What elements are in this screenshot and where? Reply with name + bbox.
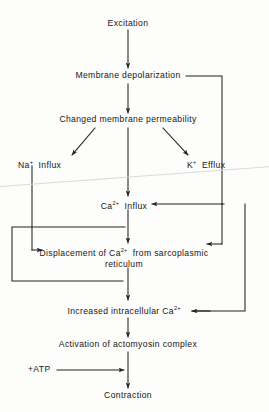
node-k-efflux: K+ Efflux xyxy=(187,157,225,171)
increased-ca-text: Increased intracellular Ca xyxy=(67,306,174,316)
node-atp: +ATP xyxy=(28,364,51,375)
edge-permeability-to-na-influx xyxy=(72,128,95,155)
edge-depolarization-right-branch xyxy=(186,76,222,204)
ca-ion-charge: 2+ xyxy=(112,200,119,206)
node-increased-intracellular-ca: Increased intracellular Ca2+ xyxy=(67,303,180,317)
node-contraction: Contraction xyxy=(104,390,152,401)
na-influx-label: Influx xyxy=(39,160,62,170)
displacement-text-pre: Displacement of Ca xyxy=(39,248,120,258)
node-excitation: Excitation xyxy=(108,18,149,29)
node-ca-influx: Ca2+ Influx xyxy=(101,198,147,212)
ca-influx-label: Influx xyxy=(125,201,148,211)
k-efflux-label: Efflux xyxy=(202,160,225,170)
ca-ion-symbol: Ca xyxy=(101,201,113,211)
k-ion-charge: + xyxy=(193,159,196,165)
displacement-ca-charge: 2+ xyxy=(121,247,128,253)
node-displacement-of-ca: Displacement of Ca2+ from sarcoplasmic r… xyxy=(39,245,208,270)
displacement-text-line2: reticulum xyxy=(105,259,143,269)
increased-ca-charge: 2+ xyxy=(174,305,181,311)
node-activation-of-actomyosin: Activation of actomyosin complex xyxy=(59,339,197,350)
na-ion-charge: + xyxy=(30,159,33,165)
node-na-influx: Na+ Influx xyxy=(18,157,61,171)
node-membrane-depolarization: Membrane depolarization xyxy=(75,70,180,81)
figure-canvas: Excitation Membrane depolarization Chang… xyxy=(0,0,269,412)
na-ion-symbol: Na xyxy=(18,160,30,170)
node-changed-membrane-permeability: Changed membrane permeability xyxy=(59,114,196,125)
edge-permeability-to-k-efflux xyxy=(163,128,188,155)
displacement-text-post: from sarcoplasmic xyxy=(133,248,209,258)
